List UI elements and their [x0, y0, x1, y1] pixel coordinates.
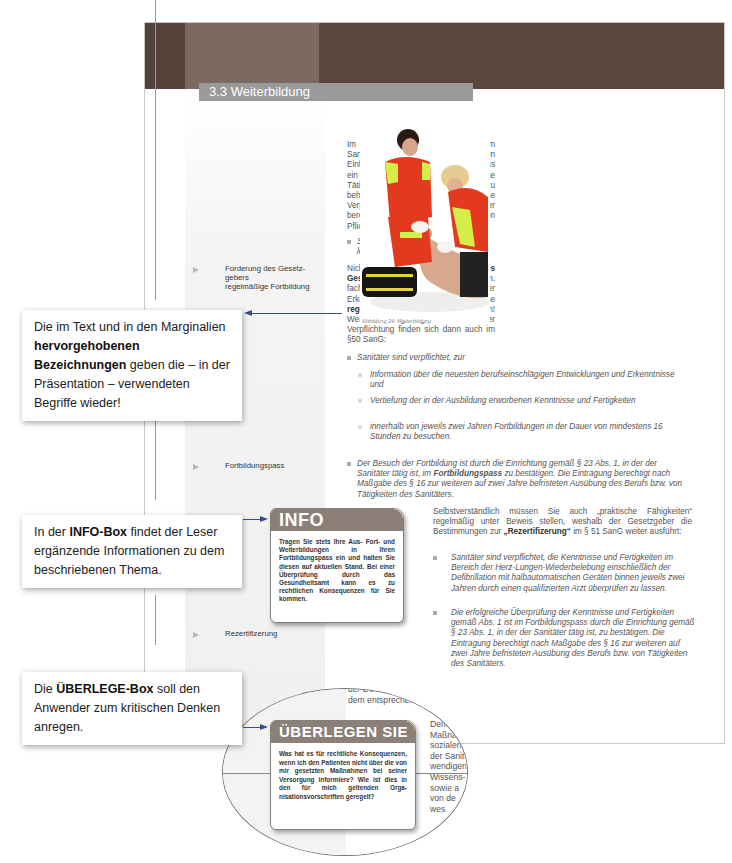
cut-line: Dem — [430, 719, 468, 730]
marginal-arrow-icon — [193, 464, 199, 470]
photo-illustration — [360, 122, 490, 322]
info-box-text: Tragen Sie stets Ihre Aus- Fort- und Wei… — [271, 531, 403, 611]
arrow-right-icon — [260, 516, 268, 522]
cut-line: Maßna — [430, 730, 468, 741]
arrow-line — [243, 519, 261, 520]
cut-line: von de — [430, 793, 468, 804]
paramedic-photo — [360, 122, 490, 322]
rez-bullet-1: Sanitäter sind verpflichtet, die Kenntni… — [433, 553, 695, 594]
marginal-fortbildungspass: Fortbildungspass — [225, 462, 284, 471]
sub-bullet-3: innerhalb von jeweils zwei Jahren Fortbi… — [358, 422, 688, 442]
header-band-left — [145, 23, 185, 89]
rez-paragraph: Selbstverständlich müssen Sie auch „prak… — [433, 507, 692, 538]
guide-line — [155, 595, 156, 645]
ueberlegen-box-title: ÜBERLEGEN SIE — [271, 721, 415, 743]
cut-line: wendigen — [430, 761, 468, 772]
marginal-rezertifizierung: Rezertifizerung — [225, 630, 277, 639]
rez-bullet-2: Die erfolgreiche Überprüfung der Kenntni… — [433, 608, 695, 669]
sub-bullet-icon — [358, 399, 362, 403]
magnified-content: der Dokum dem entsprechen Dem Maßna sozi… — [222, 688, 468, 856]
pass-bullet: Der Besuch der Fortbildung ist durch die… — [347, 459, 687, 500]
p2-bullet-text: Sanitäter sind verpflichtet, zur — [357, 353, 465, 362]
info-box-title: INFO — [271, 509, 403, 531]
bullet-square-icon — [347, 462, 351, 466]
callout-bold: ÜBERLEGE-Box — [56, 682, 153, 696]
bullet-square-icon — [347, 240, 351, 244]
cut-line: Wissens- — [430, 772, 468, 783]
arrow-left-icon — [244, 310, 252, 316]
sub-bullet-icon — [358, 373, 362, 377]
sub-bullet-text: Information über die neuesten berufseins… — [370, 370, 675, 389]
pass-highlight: Fortbildungspass — [433, 469, 502, 478]
cut-line: der Sanit — [430, 751, 468, 762]
cut-text-left: der Dokum dem entsprechen — [348, 688, 448, 705]
info-box: INFO Tragen Sie stets Ihre Aus- Fort- un… — [270, 508, 404, 623]
cut-text-right: Dem Maßna sozialen der Sanit wendigen Wi… — [430, 719, 468, 814]
cut-line: sozialen — [430, 740, 468, 751]
callout-bold: hervorgehobenen Bezeichnungen — [34, 339, 140, 372]
rez-bullet-text: Die erfolgreiche Überprüfung der Kenntni… — [451, 608, 695, 668]
figure-caption: Abbildung 24: Weiterbildung — [362, 318, 431, 324]
callout-text: Die — [34, 682, 56, 696]
bullet-square-icon — [347, 356, 351, 360]
p2-bullet: Sanitäter sind verpflichtet, zur — [347, 353, 687, 363]
cut-line: wes — [430, 804, 468, 815]
rez-bullet-text: Sanitäter sind verpflichtet, die Kenntni… — [451, 553, 684, 593]
callout-ueberlege-box: Die ÜBERLEGE-Box soll den Anwender zum k… — [22, 672, 242, 745]
bullet-square-icon — [433, 556, 437, 560]
marginal-arrow-icon — [193, 632, 199, 638]
marginal-arrow-icon — [193, 267, 199, 273]
header-band-accent — [185, 23, 319, 89]
callout-highlighted-terms: Die im Text und in den Mar­ginalien herv… — [22, 310, 242, 421]
bullet-square-icon — [433, 611, 437, 615]
arrow-line — [243, 727, 261, 728]
cut-line: sowie a — [430, 783, 468, 794]
rez-text-b: im § 51 SanG weiter ausführt: — [571, 527, 682, 536]
sub-bullet-1: Information über die neuesten berufseins… — [358, 370, 688, 390]
sub-bullet-2: Vertiefung der in der Ausbildung erworbe… — [358, 396, 688, 406]
callout-text: In der — [34, 525, 69, 539]
sub-bullet-text: innerhalb von jeweils zwei Jahren Fortbi… — [370, 422, 663, 441]
callout-text: Die im Text und in den Mar­ginalien — [34, 320, 226, 334]
cut-line: dem entsprechen — [348, 695, 448, 706]
sub-bullet-icon — [358, 425, 362, 429]
marginal-forderung: Forderung des Gesetz­gebers regelmäßige … — [225, 265, 325, 291]
callout-info-box: In der INFO-Box findet der Le­ser ergänz… — [22, 515, 242, 588]
arrow-right-icon — [260, 724, 268, 730]
ueberlegen-box-text: Was hat es für rechtliche Konsequen­zen,… — [271, 743, 415, 809]
callout-bold: INFO-Box — [69, 525, 127, 539]
ueberlegen-box: ÜBERLEGEN SIE Was hat es für rechtliche … — [270, 720, 416, 830]
arrow-line — [250, 313, 342, 314]
rez-highlight: „Rezertifizerung“ — [504, 527, 571, 536]
guide-line — [155, 0, 156, 300]
magnifier-ellipse: der Dokum dem entsprechen Dem Maßna sozi… — [222, 688, 468, 856]
section-title: 3.3 Weiterbildung — [199, 83, 473, 101]
sub-bullet-text: Vertiefung der in der Ausbildung erworbe… — [370, 396, 636, 405]
header-band — [145, 23, 724, 89]
